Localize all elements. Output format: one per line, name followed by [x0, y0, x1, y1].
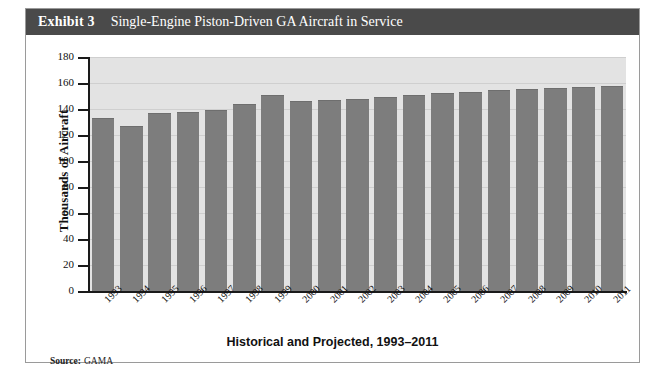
y-axis-line [88, 57, 90, 292]
bar [346, 99, 369, 291]
y-axis-tick-label: 40 [30, 232, 74, 244]
gridline [89, 57, 626, 58]
y-axis-tick-label: 100 [30, 154, 74, 166]
y-axis-tick-label: 0 [30, 284, 74, 296]
bar [261, 95, 284, 291]
y-axis-tick-label: 180 [30, 50, 74, 62]
y-axis-tick [78, 161, 89, 163]
bar [148, 113, 171, 291]
bar [120, 126, 143, 291]
bar [572, 87, 595, 291]
bar [290, 101, 313, 291]
y-axis-tick [78, 57, 89, 59]
bar [544, 88, 567, 291]
y-axis-tick [78, 83, 89, 85]
exhibit-title: Single-Engine Piston-Driven GA Aircraft … [111, 14, 403, 30]
source-value: GAMA [84, 356, 113, 366]
chart-body: Thousands of Aircraft 020406080100120140… [26, 35, 639, 364]
bar [374, 97, 397, 291]
bar [318, 100, 341, 291]
y-axis-tick-label: 160 [30, 76, 74, 88]
y-axis-tick-label: 20 [30, 258, 74, 270]
x-axis-caption: Historical and Projected, 1993–2011 [26, 335, 639, 349]
bar [601, 86, 624, 291]
bar [488, 90, 511, 291]
bar [233, 104, 256, 291]
source-line: Source:GAMA [50, 356, 113, 366]
exhibit-frame: Exhibit 3 Single-Engine Piston-Driven GA… [25, 8, 640, 363]
exhibit-header: Exhibit 3 Single-Engine Piston-Driven GA… [26, 9, 639, 35]
bar [516, 89, 539, 291]
bar [205, 110, 228, 291]
y-axis-tick [78, 291, 89, 293]
y-axis-tick-label: 140 [30, 102, 74, 114]
bar [431, 93, 454, 291]
bar [459, 92, 482, 291]
y-axis-tick-label: 120 [30, 128, 74, 140]
y-axis-tick [78, 265, 89, 267]
source-label: Source: [50, 356, 81, 366]
bar [403, 95, 426, 291]
y-axis-tick [78, 213, 89, 215]
y-axis-tick [78, 109, 89, 111]
y-axis-tick [78, 135, 89, 137]
y-axis-tick [78, 187, 89, 189]
bar [177, 112, 200, 291]
y-axis-tick [78, 239, 89, 241]
bar [92, 118, 115, 291]
y-axis-tick-label: 60 [30, 206, 74, 218]
plot-area [89, 57, 626, 291]
exhibit-number: Exhibit 3 [38, 14, 95, 30]
y-axis-tick-label: 80 [30, 180, 74, 192]
gridline [89, 83, 626, 84]
